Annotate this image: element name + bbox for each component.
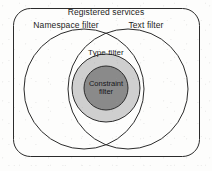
constraint-filter-label-line2: filter	[76, 88, 136, 96]
namespace-filter-label: Namespace filter	[18, 21, 114, 30]
text-filter-label: Text filter	[112, 21, 180, 30]
constraint-filter-label: Constraintfilter	[76, 80, 136, 96]
registered-services-label: Registered services	[0, 8, 212, 17]
type-filter-label: Type filter	[76, 49, 136, 57]
venn-diagram: Registered services Namespace filter Tex…	[0, 0, 212, 171]
